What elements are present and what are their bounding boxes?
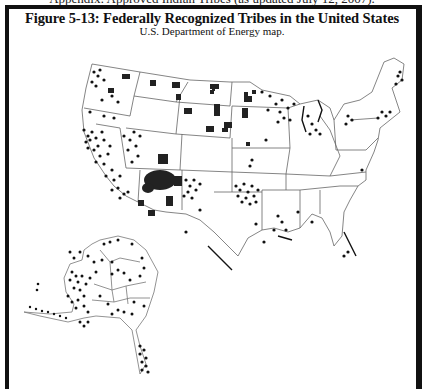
us-contiguous-map [82,58,404,256]
alaska-dots [29,239,150,374]
alaska-map [24,236,158,374]
tribe-location-dots [82,68,403,257]
